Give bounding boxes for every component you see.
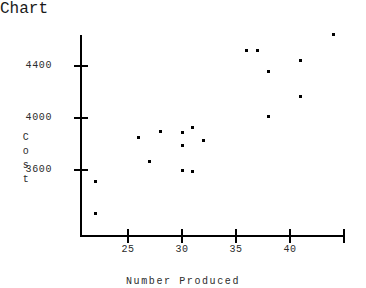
data-point	[202, 139, 205, 142]
data-point	[181, 131, 184, 134]
x-axis-tick	[289, 229, 291, 243]
data-point	[299, 95, 302, 98]
scatter-chart: 3600 4000 4400 25303540 C o s t Number P…	[0, 18, 366, 288]
y-axis-title-char: s	[18, 159, 34, 173]
data-point	[159, 130, 162, 133]
data-point	[94, 180, 97, 183]
plot-area: 3600 4000 4400 25303540	[0, 18, 366, 288]
data-point	[191, 170, 194, 173]
data-point	[148, 160, 151, 163]
data-point	[94, 212, 97, 215]
data-point	[332, 33, 335, 36]
x-axis-tick	[181, 229, 183, 243]
data-point	[267, 115, 270, 118]
x-axis-tick	[235, 229, 237, 243]
data-point	[137, 136, 140, 139]
data-point	[181, 144, 184, 147]
data-point	[267, 70, 270, 73]
y-axis-tick-label: 4400	[6, 61, 52, 71]
x-axis-tick-label: 30	[162, 245, 202, 255]
x-axis-tick	[343, 229, 345, 243]
y-axis-tick	[74, 65, 88, 67]
y-axis-tick-label: 4000	[6, 113, 52, 123]
data-point	[191, 126, 194, 129]
x-axis-tick	[127, 229, 129, 243]
data-point	[256, 49, 259, 52]
x-axis-tick-label: 40	[270, 245, 310, 255]
data-point	[299, 59, 302, 62]
y-axis-title-char: o	[18, 145, 34, 159]
y-axis-tick	[74, 117, 88, 119]
y-axis-title-char: C	[18, 131, 34, 145]
y-axis-tick	[74, 169, 88, 171]
x-axis-line	[81, 235, 345, 237]
x-axis-title: Number Produced	[0, 276, 366, 287]
y-axis-title-char: t	[18, 173, 34, 187]
data-point	[245, 49, 248, 52]
data-point	[181, 169, 184, 172]
x-axis-tick-label: 35	[216, 245, 256, 255]
x-axis-tick-label: 25	[108, 245, 148, 255]
y-axis-title: C o s t	[18, 131, 34, 187]
